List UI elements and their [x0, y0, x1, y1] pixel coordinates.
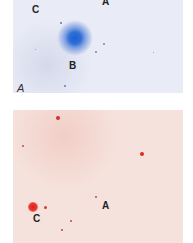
faint-star	[64, 85, 66, 87]
red-star	[70, 220, 72, 222]
red-star	[61, 229, 63, 231]
bright-red-star	[28, 202, 38, 212]
label-b-blue: B	[69, 61, 76, 71]
label-c-blue: C	[32, 5, 39, 15]
red-star	[140, 152, 144, 156]
panel-letter: A	[17, 83, 24, 94]
faint-star	[103, 43, 105, 45]
label-a-blue: A	[102, 0, 109, 7]
label-c-red: C	[33, 214, 40, 224]
red-star	[56, 116, 60, 120]
label-a-red: A	[102, 201, 109, 211]
faint-star	[35, 49, 36, 50]
faint-star	[95, 51, 97, 53]
red-star	[22, 145, 24, 147]
faint-star	[60, 22, 62, 24]
faint-star	[153, 52, 154, 53]
red-star	[95, 196, 97, 198]
red-star	[44, 206, 47, 209]
